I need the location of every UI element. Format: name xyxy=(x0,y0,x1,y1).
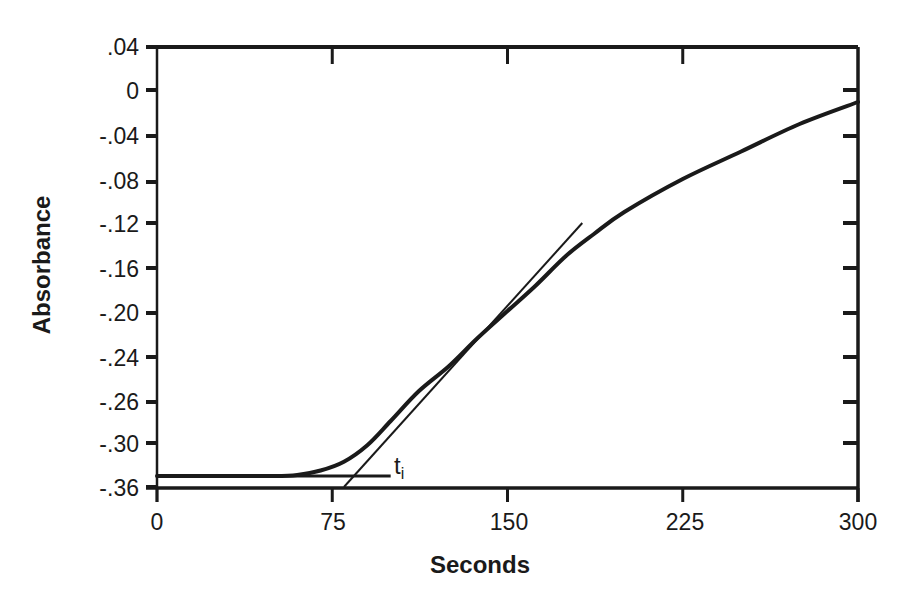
y-tick-label: -.24 xyxy=(99,345,139,371)
y-tick-label: -.12 xyxy=(99,211,139,237)
plot-frame xyxy=(146,47,858,502)
y-tick-label: -.04 xyxy=(99,123,139,149)
absorbance-chart: .04 0 -.04 -.08 -.12 -.16 -.20 -.24 -.26… xyxy=(0,0,912,600)
y-tick-label: .04 xyxy=(107,34,139,60)
y-tick-label: -.36 xyxy=(99,475,139,501)
y-tick-label: -.08 xyxy=(99,168,139,194)
y-tick-label: -.26 xyxy=(99,389,139,415)
x-tick-labels: 0 75 150 225 300 xyxy=(151,509,878,535)
x-tick-label: 150 xyxy=(490,509,528,535)
x-tick-marks xyxy=(157,47,858,502)
y-tick-label: 0 xyxy=(126,78,139,104)
y-tick-marks xyxy=(146,47,858,487)
ti-subscript: i xyxy=(401,465,405,482)
x-tick-label: 300 xyxy=(839,509,877,535)
x-axis-title: Seconds xyxy=(430,551,530,578)
y-tick-label: -.30 xyxy=(99,431,139,457)
y-tick-labels: .04 0 -.04 -.08 -.12 -.16 -.20 -.24 -.26… xyxy=(99,34,139,501)
absorbance-curve xyxy=(157,102,858,476)
ti-annotation: ti xyxy=(394,452,404,482)
y-tick-label: -.16 xyxy=(99,256,139,282)
x-tick-label: 225 xyxy=(666,509,704,535)
y-axis-title: Absorbance xyxy=(28,196,55,335)
x-tick-label: 0 xyxy=(151,509,164,535)
y-tick-label: -.20 xyxy=(99,300,139,326)
x-tick-label: 75 xyxy=(320,509,346,535)
